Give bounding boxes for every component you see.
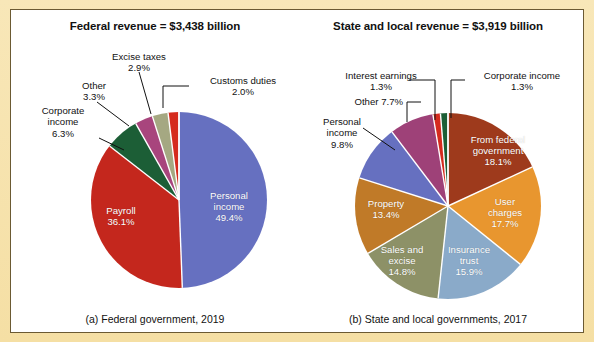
chart-a-title: Federal revenue = $3,438 billion	[19, 20, 291, 32]
label-b-user-charges: User charges 17.7%	[473, 196, 537, 230]
label-b-other: Other 7.7%	[325, 96, 403, 107]
label-b-from-federal-government: From federal government 18.1%	[453, 134, 543, 168]
label-b-personal-income: Personal income 9.8%	[311, 116, 373, 150]
label-b-interest-earnings: Interest earnings 1.3%	[329, 70, 433, 93]
chart-b-title: State and local revenue = $3,919 billion	[293, 20, 583, 32]
label-a-corporate-income: Corporate income 6.3%	[27, 105, 99, 139]
label-b-property: Property 13.4%	[352, 198, 420, 220]
label-a-customs-duties: Customs duties 2.0%	[191, 75, 295, 98]
label-b-corporate-income: Corporate income 1.3%	[467, 70, 577, 93]
label-a-excise-taxes: Excise taxes 2.9%	[96, 51, 182, 74]
label-b-sales-and-excise: Sales and excise 14.8%	[368, 244, 436, 278]
label-a-payroll: Payroll 36.1%	[85, 205, 157, 227]
label-a-other: Other 3.3%	[67, 80, 121, 103]
figure-container: Federal revenue = $3,438 billion State a…	[0, 0, 594, 342]
label-a-personal-income: Personal income 49.4%	[193, 190, 265, 224]
chart-a-caption: (a) Federal government, 2019	[19, 313, 291, 325]
label-b-insurance-trust: Insurance trust 15.9%	[436, 244, 502, 278]
figure-panel: Federal revenue = $3,438 billion State a…	[10, 9, 584, 333]
chart-b-caption: (b) State and local governments, 2017	[293, 313, 583, 325]
